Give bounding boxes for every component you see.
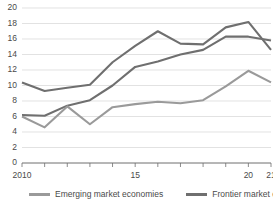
gridlines	[22, 8, 271, 148]
y-tick-label: 10	[8, 80, 18, 90]
x-tick-label: 21	[266, 170, 273, 180]
series-line-2	[22, 71, 271, 128]
legend-item-frontier: Frontier market economies	[186, 189, 273, 199]
y-tick-label: 16	[8, 33, 18, 43]
y-tick-label: 20	[8, 2, 18, 12]
y-tick-label: 14	[8, 49, 18, 59]
x-tick-label: 2010	[13, 170, 32, 180]
y-tick-label: 8	[12, 95, 17, 105]
y-tick-label: 2	[12, 142, 17, 152]
y-tick-label: 0	[12, 157, 17, 167]
data-series	[22, 22, 271, 127]
chart-plot-area: 02468101214161820 2010152021	[0, 0, 273, 186]
legend-swatch-emerging	[29, 193, 50, 196]
line-chart: 02468101214161820 2010152021 Emerging ma…	[0, 0, 273, 210]
y-tick-label: 6	[12, 111, 17, 121]
chart-legend: Emerging market economies Frontier marke…	[0, 186, 273, 202]
legend-label-frontier: Frontier market economies	[212, 189, 273, 199]
y-axis-tick-labels: 02468101214161820	[8, 2, 18, 167]
legend-swatch-frontier	[186, 193, 207, 196]
y-tick-label: 18	[8, 18, 18, 28]
x-tick-label: 20	[244, 170, 254, 180]
x-axis	[22, 163, 271, 167]
x-axis-tick-labels: 2010152021	[13, 170, 273, 180]
y-tick-label: 12	[8, 64, 18, 74]
legend-label-emerging: Emerging market economies	[55, 189, 163, 199]
x-tick-label: 15	[130, 170, 140, 180]
legend-item-emerging: Emerging market economies	[29, 189, 163, 199]
y-tick-label: 4	[12, 126, 17, 136]
